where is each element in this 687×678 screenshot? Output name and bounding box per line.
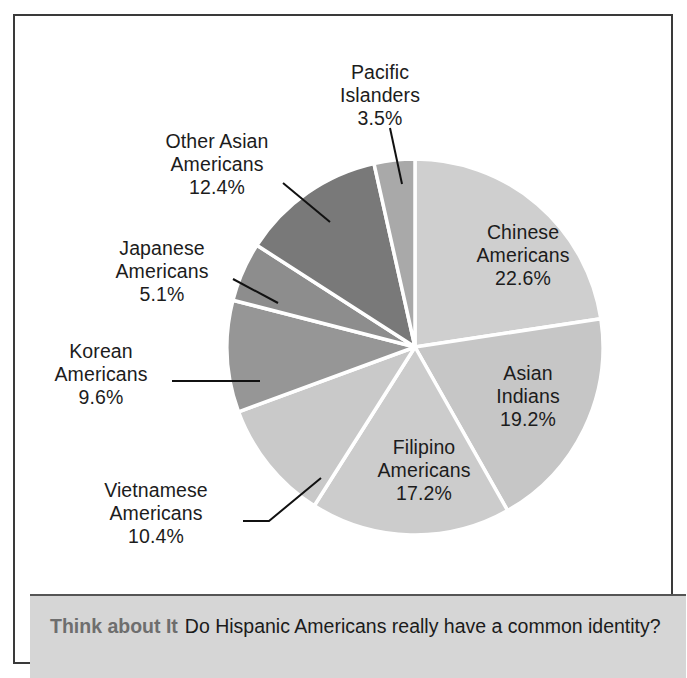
- slice-label-line1: Japanese: [97, 237, 227, 260]
- caption-lead-label: Think about It: [50, 615, 178, 637]
- caption-body-text: Do Hispanic Americans really have a comm…: [185, 615, 661, 637]
- slice-label-line1: Filipino: [349, 436, 499, 459]
- caption-text: Think about ItDo Hispanic Americans real…: [50, 612, 672, 640]
- slice-label-percent: 12.4%: [147, 176, 287, 199]
- slice-label-line2: Indians: [458, 385, 598, 408]
- slice-label-line1: Vietnamese: [71, 479, 241, 502]
- slice-label-percent: 3.5%: [315, 107, 445, 130]
- slice-label-line1: Other Asian: [147, 130, 287, 153]
- slice-label-line2: Americans: [147, 153, 287, 176]
- slice-label-percent: 17.2%: [349, 482, 499, 505]
- slice-label-percent: 19.2%: [458, 408, 598, 431]
- slice-label-other-asian-americans: Other Asian Americans 12.4%: [147, 130, 287, 199]
- slice-label-line2: Americans: [448, 244, 598, 267]
- slice-label-japanese-americans: Japanese Americans 5.1%: [97, 237, 227, 306]
- slice-label-line1: Korean: [36, 340, 166, 363]
- slice-label-filipino-americans: Filipino Americans 17.2%: [349, 436, 499, 505]
- caption-band: Think about ItDo Hispanic Americans real…: [30, 594, 686, 678]
- slice-label-line2: Islanders: [315, 84, 445, 107]
- slice-label-percent: 10.4%: [71, 525, 241, 548]
- slice-label-vietnamese-americans: Vietnamese Americans 10.4%: [71, 479, 241, 548]
- slice-label-line2: Americans: [97, 260, 227, 283]
- slice-label-line2: Americans: [71, 502, 241, 525]
- slice-label-line1: Pacific: [315, 61, 445, 84]
- slice-label-percent: 9.6%: [36, 386, 166, 409]
- slice-label-pacific-islanders: Pacific Islanders 3.5%: [315, 61, 445, 130]
- slice-label-line1: Chinese: [448, 221, 598, 244]
- chart-area: Pacific Islanders 3.5% Other Asian Ameri…: [30, 32, 686, 577]
- slice-label-chinese-americans: Chinese Americans 22.6%: [448, 221, 598, 290]
- slice-label-korean-americans: Korean Americans 9.6%: [36, 340, 166, 409]
- slice-label-line2: Americans: [36, 363, 166, 386]
- figure-frame: Pacific Islanders 3.5% Other Asian Ameri…: [13, 14, 673, 664]
- slice-label-percent: 22.6%: [448, 267, 598, 290]
- pie-chart-figure: Pacific Islanders 3.5% Other Asian Ameri…: [0, 0, 687, 678]
- slice-label-percent: 5.1%: [97, 283, 227, 306]
- slice-label-line1: Asian: [458, 362, 598, 385]
- slice-label-line2: Americans: [349, 459, 499, 482]
- slice-label-asian-indians: Asian Indians 19.2%: [458, 362, 598, 431]
